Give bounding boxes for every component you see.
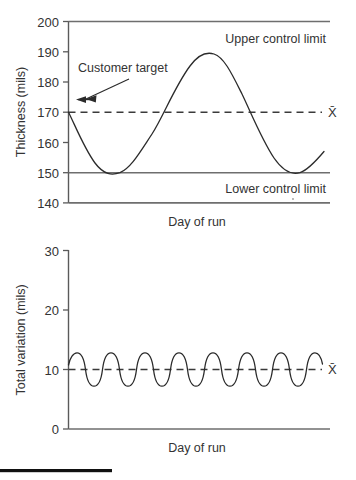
thickness-tick-label-160: 160 xyxy=(37,136,59,151)
variation-tick-label-30: 30 xyxy=(45,244,59,259)
thickness-tick-label-180: 180 xyxy=(37,75,59,90)
thickness-tick-label-190: 190 xyxy=(37,45,59,60)
thickness-y-axis-title: Thickness (mils) xyxy=(14,67,28,157)
upper-control-limit-label: Upper control limit xyxy=(225,32,326,46)
thickness-tick-label-170: 170 xyxy=(37,105,59,120)
variation-x-axis-title: Day of run xyxy=(168,441,226,455)
lower-control-limit-label: Lower control limit xyxy=(225,182,326,196)
thickness-tick-label-200: 200 xyxy=(37,15,59,30)
customer-target-label: Customer target xyxy=(78,61,168,75)
figure-background xyxy=(0,0,356,480)
variation-tick-label-20: 20 xyxy=(45,303,59,318)
variation-tick-label-10: 10 xyxy=(45,363,59,378)
footer-rule xyxy=(0,469,112,472)
variation-mean-label: X̄ xyxy=(328,362,337,377)
scan-speck xyxy=(292,198,294,200)
variation-y-axis-title: Total variation (mils) xyxy=(14,284,28,395)
variation-tick-label-0: 0 xyxy=(52,422,59,437)
process-control-figure: 200 190 180 170 160 150 140 Thickness (m… xyxy=(0,0,356,480)
thickness-x-axis-title: Day of run xyxy=(168,215,226,229)
thickness-tick-label-150: 150 xyxy=(37,166,59,181)
thickness-tick-label-140: 140 xyxy=(37,196,59,211)
thickness-mean-label: X̄ xyxy=(328,105,337,120)
